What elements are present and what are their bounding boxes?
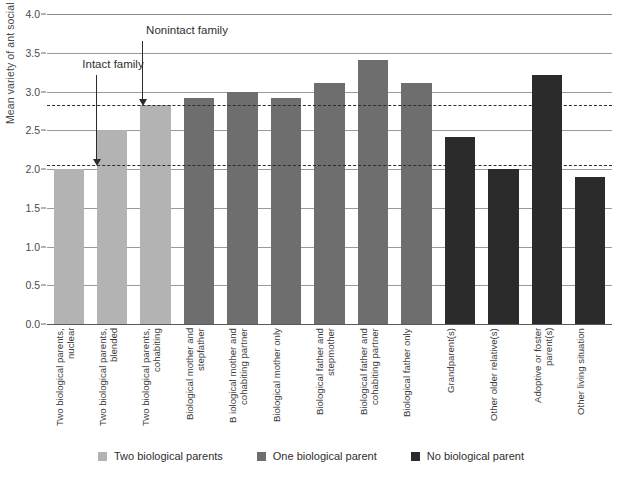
legend: Two biological parentsOne biological par…	[0, 450, 622, 462]
y-tick-mark	[41, 91, 46, 92]
y-tick-mark	[41, 246, 46, 247]
gridline-4.0	[47, 14, 612, 15]
legend-label: No biological parent	[427, 450, 524, 462]
bar[interactable]	[271, 98, 301, 324]
x-axis-label: Biological mother only	[271, 328, 301, 436]
y-tick-label: 1.5	[25, 202, 40, 214]
x-axis-label: Biological father only	[401, 328, 431, 436]
bar-chart-figure: Mean variety of ant social behavior 0.00…	[0, 0, 622, 477]
bar[interactable]	[140, 105, 170, 324]
annotation-label: Intact family	[82, 58, 143, 70]
legend-swatch-icon	[98, 452, 107, 461]
annotation-arrow-head	[139, 99, 147, 106]
y-tick-mark	[41, 130, 46, 131]
bar[interactable]	[488, 169, 518, 324]
x-axis-label: Two biological parents, blended	[97, 328, 127, 436]
bar[interactable]	[314, 83, 344, 324]
y-tick-mark	[41, 324, 46, 325]
x-axis-label: Biological father and cohabiting partner	[358, 328, 388, 436]
gridline-3.5	[47, 53, 612, 54]
y-tick-mark	[41, 52, 46, 53]
x-axis-label: Grandparent(s)	[445, 328, 475, 436]
annotation-label: Nonintact family	[146, 24, 228, 36]
y-tick-mark	[41, 14, 46, 15]
x-axis-category-labels: Two biological parents, nuclearTwo biolo…	[47, 328, 612, 440]
y-tick-label: 3.0	[25, 86, 40, 98]
y-tick-label: 3.5	[25, 47, 40, 59]
x-axis-label: Biological mother and stepfather	[184, 328, 214, 436]
gridline-0.0	[47, 324, 612, 325]
y-tick-mark	[41, 285, 46, 286]
legend-label: One biological parent	[273, 450, 377, 462]
legend-item[interactable]: One biological parent	[257, 450, 377, 462]
annotation-arrow-head	[93, 159, 101, 166]
reference-line-nonintact-family	[47, 105, 612, 106]
y-axis-title: Mean variety of ant social behavior	[4, 0, 22, 124]
legend-item[interactable]: Two biological parents	[98, 450, 223, 462]
legend-swatch-icon	[411, 452, 420, 461]
bar[interactable]	[401, 83, 431, 324]
bar[interactable]	[184, 98, 214, 324]
x-axis-label: Biological father and stepmother	[314, 328, 344, 436]
bar[interactable]	[97, 130, 127, 324]
x-axis-label: Two biological parents, nuclear	[54, 328, 84, 436]
y-tick-label: 0.0	[25, 318, 40, 330]
y-tick-label: 0.5	[25, 279, 40, 291]
legend-label: Two biological parents	[114, 450, 223, 462]
bar[interactable]	[532, 75, 562, 324]
plot-area: 0.00.51.01.52.02.53.03.54.0Nonintact fam…	[47, 14, 612, 324]
x-axis-label: Other older relative(s)	[488, 328, 518, 436]
y-tick-label: 1.0	[25, 241, 40, 253]
bar[interactable]	[575, 177, 605, 324]
y-tick-label: 2.5	[25, 124, 40, 136]
annotation-arrow-shaft	[96, 75, 97, 159]
x-axis-label: Two biological parents, cohabiting	[140, 328, 170, 436]
y-tick-label: 4.0	[25, 8, 40, 20]
bar[interactable]	[358, 60, 388, 324]
x-axis-label: Adoptive or foster parent(s)	[532, 328, 562, 436]
legend-swatch-icon	[257, 452, 266, 461]
legend-item[interactable]: No biological parent	[411, 450, 524, 462]
y-tick-mark	[41, 207, 46, 208]
y-tick-mark	[41, 169, 46, 170]
x-axis-label: Other living situation	[575, 328, 605, 436]
x-axis-label: B iological mother and cohabiting partne…	[227, 328, 257, 436]
y-tick-label: 2.0	[25, 163, 40, 175]
bar[interactable]	[54, 169, 84, 324]
reference-line-intact-family	[47, 165, 612, 166]
bar[interactable]	[227, 92, 257, 325]
